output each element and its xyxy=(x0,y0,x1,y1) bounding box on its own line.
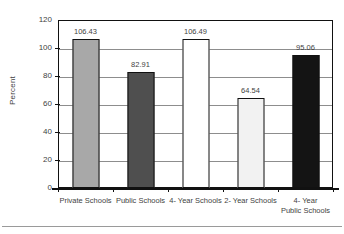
bar-group: 82.91 xyxy=(113,20,168,188)
x-tick-mark xyxy=(113,188,114,192)
y-axis-title: Percent xyxy=(8,61,17,121)
bar-value-label: 64.54 xyxy=(241,86,260,95)
x-tick-mark xyxy=(333,188,334,192)
bar-chart-figure: Percent 020406080100120 106.4382.91106.4… xyxy=(0,0,344,234)
y-tick-label: 100 xyxy=(12,44,52,52)
bars-layer: 106.4382.91106.4964.5495.06 xyxy=(58,20,333,188)
y-tick-label: 120 xyxy=(12,16,52,24)
bar xyxy=(292,55,319,188)
y-tick-label: 60 xyxy=(12,100,52,108)
bar xyxy=(127,72,154,188)
bar-value-label: 95.06 xyxy=(296,43,315,52)
bar xyxy=(237,98,264,188)
bar xyxy=(72,39,99,188)
bar-value-label: 82.91 xyxy=(131,60,150,69)
x-category-label: 4- Year Public Schools xyxy=(270,196,341,215)
x-tick-mark xyxy=(168,188,169,192)
bar-group: 106.49 xyxy=(168,20,223,188)
bar-group: 106.43 xyxy=(58,20,113,188)
y-tick-label: 20 xyxy=(12,156,52,164)
x-tick-mark xyxy=(278,188,279,192)
y-tick-label: 0 xyxy=(12,184,52,192)
x-tick-mark xyxy=(58,188,59,192)
bar xyxy=(182,39,209,188)
bar-value-label: 106.49 xyxy=(184,27,207,36)
y-tick-label: 80 xyxy=(12,72,52,80)
bar-group: 95.06 xyxy=(278,20,333,188)
bar-group: 64.54 xyxy=(223,20,278,188)
x-tick-mark xyxy=(223,188,224,192)
y-tick-label: 40 xyxy=(12,128,52,136)
bar-value-label: 106.43 xyxy=(74,27,97,36)
x-axis-line xyxy=(52,188,339,190)
bottom-divider xyxy=(2,226,342,227)
